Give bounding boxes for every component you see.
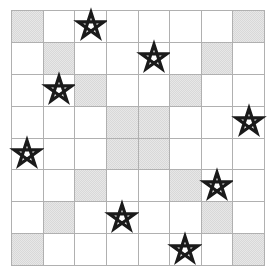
- grid-cell-empty[interactable]: [202, 107, 234, 139]
- grid-cell-empty[interactable]: [202, 11, 234, 43]
- grid-cell-empty[interactable]: [75, 107, 107, 139]
- grid-cell-empty[interactable]: [12, 107, 44, 139]
- star-grid-page: [0, 0, 276, 278]
- grid-cell-star[interactable]: [12, 139, 44, 171]
- grid-cell-shaded[interactable]: [202, 43, 234, 75]
- grid-cell-shaded[interactable]: [233, 11, 265, 43]
- grid-cell-shaded[interactable]: [75, 170, 107, 202]
- grid-cell-empty[interactable]: [170, 43, 202, 75]
- grid-cell-shaded[interactable]: [12, 234, 44, 266]
- grid-cell-shaded[interactable]: [139, 107, 171, 139]
- grid-cell-star[interactable]: [44, 75, 76, 107]
- grid-cell-empty[interactable]: [44, 11, 76, 43]
- grid-cell-shaded[interactable]: [107, 107, 139, 139]
- grid-cell-empty[interactable]: [170, 107, 202, 139]
- grid-cell-empty[interactable]: [233, 139, 265, 171]
- pentagram-star-icon: [44, 75, 74, 105]
- grid-cell-empty[interactable]: [12, 43, 44, 75]
- grid-cell-shaded[interactable]: [170, 75, 202, 107]
- grid-cell-empty[interactable]: [139, 234, 171, 266]
- pentagram-star-icon: [139, 43, 169, 73]
- grid-cell-star[interactable]: [139, 43, 171, 75]
- grid-cell-empty[interactable]: [12, 75, 44, 107]
- grid-cell-star[interactable]: [233, 107, 265, 139]
- grid-cell-shaded[interactable]: [202, 202, 234, 234]
- grid-cell-empty[interactable]: [202, 139, 234, 171]
- grid-cell-empty[interactable]: [139, 202, 171, 234]
- grid-cell-star[interactable]: [202, 170, 234, 202]
- grid-cell-empty[interactable]: [170, 11, 202, 43]
- grid-cell-empty[interactable]: [75, 43, 107, 75]
- pentagram-star-icon: [12, 139, 42, 169]
- grid-cell-shaded[interactable]: [44, 202, 76, 234]
- grid-cell-empty[interactable]: [139, 75, 171, 107]
- grid-cell-empty[interactable]: [139, 170, 171, 202]
- pentagram-star-icon: [202, 171, 232, 201]
- grid-cell-empty[interactable]: [107, 234, 139, 266]
- grid-cell-empty[interactable]: [107, 43, 139, 75]
- grid-container: [11, 10, 265, 266]
- grid-cell-empty[interactable]: [44, 234, 76, 266]
- grid-cell-empty[interactable]: [139, 11, 171, 43]
- grid-cell-empty[interactable]: [107, 11, 139, 43]
- grid-cell-empty[interactable]: [202, 234, 234, 266]
- grid-cell-empty[interactable]: [75, 139, 107, 171]
- grid-cell-shaded[interactable]: [170, 170, 202, 202]
- pentagram-star-icon: [107, 203, 137, 233]
- grid-cell-empty[interactable]: [44, 139, 76, 171]
- pentagram-star-icon: [234, 107, 264, 137]
- grid-cell-empty[interactable]: [233, 202, 265, 234]
- grid-cell-shaded[interactable]: [75, 75, 107, 107]
- grid-cell-star[interactable]: [107, 202, 139, 234]
- grid-cell-empty[interactable]: [12, 202, 44, 234]
- grid-cell-empty[interactable]: [44, 107, 76, 139]
- pentagram-star-icon: [76, 11, 106, 41]
- pentagram-star-icon: [170, 235, 200, 265]
- grid-cell-empty[interactable]: [233, 43, 265, 75]
- grid-cell-empty[interactable]: [107, 170, 139, 202]
- grid-cell-shaded[interactable]: [107, 139, 139, 171]
- grid-cell-empty[interactable]: [170, 139, 202, 171]
- grid-cell-empty[interactable]: [44, 170, 76, 202]
- grid-cell-shaded[interactable]: [44, 43, 76, 75]
- grid-cell-star[interactable]: [75, 11, 107, 43]
- grid-cell-empty[interactable]: [170, 202, 202, 234]
- grid-cell-empty[interactable]: [75, 234, 107, 266]
- grid-cell-empty[interactable]: [12, 170, 44, 202]
- grid-cell-shaded[interactable]: [233, 234, 265, 266]
- grid-cell-empty[interactable]: [107, 75, 139, 107]
- grid-cell-shaded[interactable]: [139, 139, 171, 171]
- star-grid[interactable]: [11, 10, 265, 266]
- grid-cell-empty[interactable]: [233, 170, 265, 202]
- grid-cell-empty[interactable]: [75, 202, 107, 234]
- grid-cell-shaded[interactable]: [12, 11, 44, 43]
- grid-cell-empty[interactable]: [233, 75, 265, 107]
- grid-cell-star[interactable]: [170, 234, 202, 266]
- grid-cell-empty[interactable]: [202, 75, 234, 107]
